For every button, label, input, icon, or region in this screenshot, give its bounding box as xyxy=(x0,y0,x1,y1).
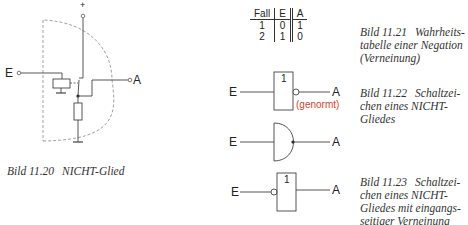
input-e-label: E xyxy=(231,185,239,199)
gate-box-label: 1 xyxy=(284,174,290,185)
caption-11-23: Bild 11.23Schaltzei- chen eines NICHT- G… xyxy=(360,163,461,225)
caption-number: Bild 11.23 xyxy=(360,176,407,188)
output-a-label: A xyxy=(332,183,340,197)
